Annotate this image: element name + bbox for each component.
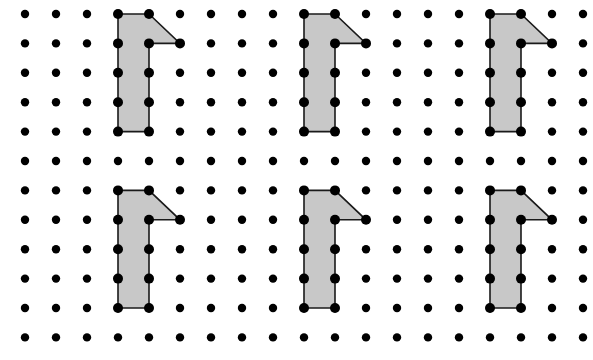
grid-dot <box>393 10 401 18</box>
grid-dot <box>21 127 29 135</box>
grid-dot <box>176 333 184 341</box>
polygon-vertex-dot <box>299 9 309 19</box>
grid-dot <box>21 157 29 165</box>
grid-dot <box>455 304 463 312</box>
grid-dot <box>21 98 29 106</box>
grid-dot <box>548 274 556 282</box>
grid-dot <box>21 304 29 312</box>
polygon-vertex-dot <box>299 97 309 107</box>
polygon-vertex-dot <box>485 244 495 254</box>
grid-dot <box>455 186 463 194</box>
grid-dot <box>331 157 339 165</box>
polygon-vertex-dot <box>175 215 185 225</box>
grid-dot <box>579 39 587 47</box>
grid-dot <box>393 333 401 341</box>
grid-dot <box>207 127 215 135</box>
grid-dot <box>21 186 29 194</box>
polygon-vertex-dot <box>547 38 557 48</box>
grid-dot <box>238 39 246 47</box>
grid-dot <box>455 10 463 18</box>
grid-dot <box>238 304 246 312</box>
grid-dot <box>238 274 246 282</box>
grid-dot <box>83 127 91 135</box>
grid-dot <box>579 127 587 135</box>
grid-dot <box>548 186 556 194</box>
grid-dot <box>238 69 246 77</box>
grid-dot <box>455 39 463 47</box>
polygon-vertex-dot <box>330 185 340 195</box>
grid-dot <box>300 157 308 165</box>
grid-dot <box>455 245 463 253</box>
grid-dot <box>52 216 60 224</box>
polygon-vertex-dot <box>485 215 495 225</box>
grid-dot <box>176 157 184 165</box>
polygon-vertex-dot <box>547 215 557 225</box>
grid-dot <box>486 157 494 165</box>
polygon-vertex-dot <box>485 97 495 107</box>
grid-dot <box>83 216 91 224</box>
polygon-vertex-dot <box>330 38 340 48</box>
grid-dot <box>207 304 215 312</box>
grid-dot <box>52 333 60 341</box>
polygon-vertex-dot <box>330 127 340 137</box>
polygon-vertex-dot <box>144 303 154 313</box>
grid-dot <box>455 157 463 165</box>
polygon-vertex-dot <box>330 97 340 107</box>
grid-dot <box>362 245 370 253</box>
polygon-vertex-dot <box>330 274 340 284</box>
polygon-vertex-dot <box>330 215 340 225</box>
grid-dot <box>455 274 463 282</box>
polygon-vertex-dot <box>299 127 309 137</box>
grid-dot <box>52 69 60 77</box>
polygon-vertex-dot <box>113 185 123 195</box>
polygon-vertex-dot <box>485 127 495 137</box>
polygon-vertex-dot <box>113 274 123 284</box>
grid-dot <box>455 216 463 224</box>
polygon-vertex-dot <box>113 303 123 313</box>
grid-dot <box>145 157 153 165</box>
grid-dot <box>238 10 246 18</box>
grid-dot <box>114 157 122 165</box>
grid-dot <box>579 216 587 224</box>
polygon-vertex-dot <box>299 244 309 254</box>
grid-dot <box>579 157 587 165</box>
grid-dot <box>548 69 556 77</box>
grid-dot <box>83 39 91 47</box>
grid-dot <box>548 304 556 312</box>
polygon-vertex-dot <box>330 303 340 313</box>
polygon-vertex-dot <box>516 274 526 284</box>
grid-dot <box>362 10 370 18</box>
polygon-vertex-dot <box>516 185 526 195</box>
polygon-vertex-dot <box>144 97 154 107</box>
grid-dot <box>269 333 277 341</box>
grid-dot <box>393 127 401 135</box>
grid-dot <box>238 127 246 135</box>
grid-dot <box>486 333 494 341</box>
grid-dot <box>176 10 184 18</box>
grid-dot <box>83 333 91 341</box>
polygon-vertex-dot <box>516 127 526 137</box>
grid-dot <box>579 304 587 312</box>
grid-dot <box>424 304 432 312</box>
grid-dot <box>269 127 277 135</box>
grid-dot <box>176 274 184 282</box>
grid-dot <box>269 186 277 194</box>
grid-dot <box>455 98 463 106</box>
grid-dot <box>83 69 91 77</box>
grid-dot <box>579 186 587 194</box>
polygon-vertex-dot <box>299 38 309 48</box>
polygon-vertex-dot <box>485 303 495 313</box>
polygon-vertex-dot <box>516 68 526 78</box>
grid-dot <box>362 98 370 106</box>
grid-dot <box>579 274 587 282</box>
grid-dot <box>269 10 277 18</box>
grid-dot <box>393 186 401 194</box>
grid-dot <box>238 333 246 341</box>
grid-dot <box>424 10 432 18</box>
grid-dot <box>21 245 29 253</box>
polygon-vertex-dot <box>144 127 154 137</box>
polygon-vertex-dot <box>113 68 123 78</box>
grid-dot <box>83 157 91 165</box>
grid-dot <box>238 157 246 165</box>
grid-dot <box>21 69 29 77</box>
